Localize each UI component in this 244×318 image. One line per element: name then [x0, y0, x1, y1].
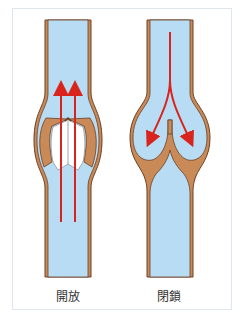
closed-valve-vein: [130, 20, 210, 277]
open-valve-vein: [34, 20, 102, 277]
closed-valve-leaflet-tip: [168, 120, 172, 134]
closed-label: 閉鎖: [139, 287, 199, 304]
vein-valve-diagram: [0, 0, 244, 318]
open-label: 開放: [38, 287, 98, 304]
